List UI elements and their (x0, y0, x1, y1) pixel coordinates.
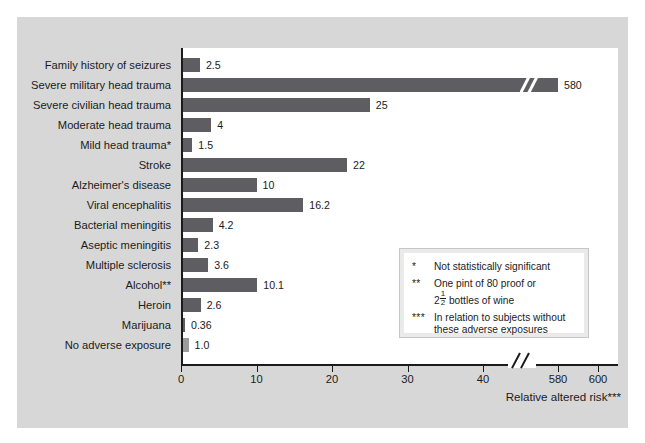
x-tick-mark (332, 366, 333, 372)
bar-value-label: 4 (217, 118, 223, 132)
bar-value-label: 16.2 (309, 198, 330, 212)
legend-note-text: Not statistically significant (434, 261, 578, 273)
category-label: Family history of seizures (45, 55, 171, 75)
x-tick-mark (181, 366, 182, 372)
x-axis-line (181, 364, 618, 366)
bar (181, 258, 208, 272)
legend-note-marker: ** (412, 278, 434, 307)
bar (181, 118, 211, 132)
x-tick-mark (558, 366, 559, 372)
x-tick-mark (598, 366, 599, 372)
legend-footnote-box: *Not statistically significant**One pint… (400, 249, 588, 337)
category-label: Aseptic meningitis (81, 235, 171, 255)
bar-value-label: 2.3 (204, 238, 219, 252)
legend-note: *Not statistically significant (412, 261, 578, 273)
category-label: Viral encephalitis (87, 195, 171, 215)
legend-note-line: these adverse exposures (434, 324, 578, 336)
legend-note: **One pint of 80 proof or212 bottles of … (412, 278, 578, 307)
category-label: Marijuana (122, 315, 171, 335)
bar-value-label: 580 (564, 78, 582, 92)
chart-figure: Family history of seizuresSevere militar… (0, 0, 645, 443)
bar-value-label: 0.36 (191, 318, 212, 332)
category-label: Mild head trauma* (80, 135, 171, 155)
legend-note: ***In relation to subjects withoutthese … (412, 312, 578, 336)
legend-note-text: One pint of 80 proof or212 bottles of wi… (434, 278, 578, 307)
category-label: Heroin (138, 295, 171, 315)
legend-note-line: One pint of 80 proof or (434, 278, 578, 290)
bar (181, 178, 257, 192)
x-tick-label: 30 (388, 373, 428, 385)
x-tick-mark (257, 366, 258, 372)
bar (181, 158, 347, 172)
category-label: Severe civilian head trauma (33, 95, 171, 115)
x-tick-mark (408, 366, 409, 372)
legend-note-line: In relation to subjects without (434, 312, 578, 324)
x-tick-label: 10 (237, 373, 277, 385)
bar (181, 98, 370, 112)
bar-value-label: 25 (376, 98, 388, 112)
legend-note-text: In relation to subjects withoutthese adv… (434, 312, 578, 336)
category-label: Severe military head trauma (31, 75, 171, 95)
legend-note-marker: *** (412, 312, 434, 336)
legend-note-line: Not statistically significant (434, 261, 578, 273)
x-axis-break-icon (508, 352, 536, 368)
category-label: Stroke (139, 155, 171, 175)
legend-note-line: 212 bottles of wine (434, 290, 578, 307)
bar (181, 218, 213, 232)
x-tick-mark (483, 366, 484, 372)
category-label: Bacterial meningitis (74, 215, 171, 235)
bar (181, 238, 198, 252)
x-tick-label: 600 (578, 373, 618, 385)
x-tick-label: 0 (161, 373, 201, 385)
x-tick-label: 20 (312, 373, 352, 385)
category-label: Moderate head trauma (58, 115, 171, 135)
bar (181, 278, 257, 292)
category-label: No adverse exposure (65, 335, 171, 355)
x-axis-title: Relative altered risk*** (506, 390, 621, 403)
bar (181, 58, 200, 72)
bar (181, 198, 303, 212)
bar-value-label: 3.6 (214, 258, 229, 272)
bar (181, 78, 558, 92)
category-label: Alcohol** (126, 275, 171, 295)
bar-value-label: 2.6 (207, 298, 222, 312)
category-label: Alzheimer's disease (72, 175, 171, 195)
bar-value-label: 1.5 (198, 138, 213, 152)
bar-value-label: 10 (263, 178, 275, 192)
bar-value-label: 10.1 (263, 278, 284, 292)
bar-break-icon (520, 76, 538, 94)
category-axis: Family history of seizuresSevere militar… (18, 48, 176, 364)
category-label: Multiple sclerosis (86, 255, 171, 275)
bar-value-label: 1.0 (195, 338, 210, 352)
bar (181, 298, 201, 312)
bar-value-label: 2.5 (206, 58, 221, 72)
fraction-glyph: 12 (440, 290, 446, 307)
bar-value-label: 22 (353, 158, 365, 172)
bar-value-label: 4.2 (219, 218, 234, 232)
x-tick-label: 580 (538, 373, 578, 385)
legend-note-marker: * (412, 261, 434, 273)
x-tick-label: 40 (463, 373, 503, 385)
y-axis-line (181, 48, 183, 366)
